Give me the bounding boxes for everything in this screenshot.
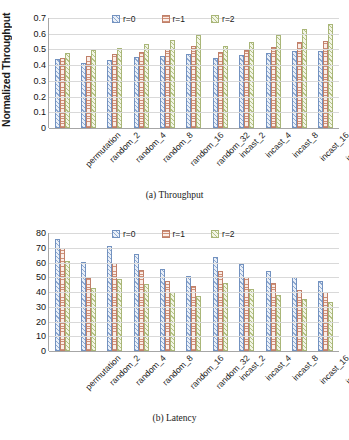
bar-r2-random_8	[144, 284, 149, 351]
legend-item-r2: r=2	[211, 229, 235, 239]
gridline	[49, 292, 339, 293]
y-tick-label: 0.4	[33, 60, 46, 70]
gridline	[49, 49, 339, 50]
legend-item-r1: r=1	[162, 229, 186, 239]
figure-throughput-latency: Normalized Throughput 00.10.20.30.40.50.…	[0, 0, 349, 440]
x-axis-tick-labels-latency: permutationrandom_2random_4random_8rando…	[0, 353, 349, 411]
y-tick-label: 0.3	[33, 76, 46, 86]
x-tick-label: incast_8	[290, 353, 320, 383]
y-axis-title-throughput: Normalized Throughput	[0, 6, 14, 134]
bar-r2-incast_16	[302, 29, 307, 128]
x-tick-label: incast_4	[264, 130, 294, 160]
x-tick-label: incast_16	[318, 130, 349, 163]
chart-panel-latency: Latency (cycles) 01020304050607080 r=0r=…	[0, 215, 349, 440]
gridline	[49, 34, 339, 35]
y-tick-label: 30	[36, 302, 46, 312]
caption-throughput: (a) Throughput	[0, 190, 349, 200]
x-axis-tick-labels-throughput: permutationrandom_2random_4random_8rando…	[0, 130, 349, 188]
bar-r2-random_2	[91, 50, 96, 128]
legend-item-r0: r=0	[112, 14, 136, 24]
gridline	[49, 81, 339, 82]
gridline	[49, 112, 339, 113]
plot-area-throughput	[48, 18, 339, 128]
legend-label: r=2	[222, 229, 235, 239]
y-tick-label: 70	[36, 243, 46, 253]
gridline	[49, 97, 339, 98]
chart-panel-throughput: Normalized Throughput 00.10.20.30.40.50.…	[0, 0, 349, 215]
y-tick-label: 0.5	[33, 44, 46, 54]
legend-label: r=0	[123, 229, 136, 239]
bar-r2-incast_4	[249, 289, 254, 351]
bar-r2-incast_2	[223, 46, 228, 129]
legend-label: r=2	[222, 14, 235, 24]
plot-area-latency	[48, 233, 339, 351]
y-tick-label: 60	[36, 258, 46, 268]
legend-swatch-icon	[211, 15, 219, 23]
legend-swatch-icon	[162, 230, 170, 238]
gridline	[49, 307, 339, 308]
gridline	[49, 336, 339, 337]
y-tick-label: 40	[36, 287, 46, 297]
legend-swatch-icon	[162, 15, 170, 23]
y-axis-tick-labels-throughput: 00.10.20.30.40.50.60.7	[22, 18, 46, 128]
gridline	[49, 322, 339, 323]
x-tick-label: incast_16	[318, 353, 349, 386]
legend-item-r1: r=1	[162, 14, 186, 24]
legend-latency: r=0r=1r=2	[112, 229, 261, 239]
y-tick-label: 0.7	[33, 13, 46, 23]
legend-throughput: r=0r=1r=2	[112, 14, 261, 24]
legend-item-r2: r=2	[211, 14, 235, 24]
bar-r2-random_8	[144, 44, 149, 128]
x-axis-line	[49, 351, 339, 352]
y-axis-tick-labels-latency: 01020304050607080	[22, 233, 46, 351]
y-tick-label: 0.6	[33, 29, 46, 39]
y-tick-label: 80	[36, 228, 46, 238]
bar-r2-random_4	[117, 48, 122, 128]
legend-swatch-icon	[112, 15, 120, 23]
bar-r2-random_32	[196, 296, 201, 351]
y-tick-label: 10	[36, 331, 46, 341]
bar-r2-random_16	[170, 40, 175, 128]
y-tick-label: 0.2	[33, 92, 46, 102]
legend-item-r0: r=0	[112, 229, 136, 239]
x-axis-line	[49, 128, 339, 129]
legend-label: r=1	[173, 229, 186, 239]
legend-label: r=0	[123, 14, 136, 24]
bar-r2-incast_2	[223, 283, 228, 351]
gridline	[49, 65, 339, 66]
y-tick-label: 20	[36, 317, 46, 327]
gridline	[49, 248, 339, 249]
gridline	[49, 263, 339, 264]
bar-r2-incast_32	[328, 302, 333, 351]
y-tick-label: 0.1	[33, 107, 46, 117]
y-tick-label: 50	[36, 272, 46, 282]
x-tick-label: incast_4	[264, 353, 294, 383]
bar-r2-incast_4	[249, 42, 254, 128]
legend-swatch-icon	[211, 230, 219, 238]
x-tick-label: incast_8	[290, 130, 320, 160]
gridline	[49, 277, 339, 278]
bar-r2-random_2	[91, 288, 96, 351]
legend-label: r=1	[173, 14, 186, 24]
caption-latency: (b) Latency	[0, 413, 349, 423]
bar-r2-random_4	[117, 279, 122, 351]
legend-swatch-icon	[112, 230, 120, 238]
